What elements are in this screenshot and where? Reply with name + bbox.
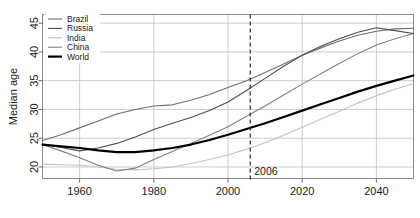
chart-legend: BrazilRussiaIndiaChinaWorld <box>44 12 100 63</box>
y-tick-label-25: 25 <box>29 132 41 144</box>
median-age-line-chart: 202530354045 19601980200020202040 Median… <box>0 0 420 218</box>
vline-2006-label: 2006 <box>254 165 278 177</box>
y-tick-label-20: 20 <box>29 161 41 173</box>
x-tick-label-2000: 2000 <box>216 185 240 197</box>
x-axis-tickmarks <box>80 179 377 183</box>
y-axis-tick-labels: 202530354045 <box>29 17 41 173</box>
x-tick-label-1980: 1980 <box>142 185 166 197</box>
y-tick-label-40: 40 <box>29 46 41 58</box>
x-tick-label-2020: 2020 <box>290 185 314 197</box>
vertical-gridlines <box>80 15 377 179</box>
annotation-2006-group: 2006 <box>250 15 278 180</box>
y-axis-title: Median age <box>7 68 19 126</box>
chart-canvas: 202530354045 19601980200020202040 Median… <box>0 0 420 218</box>
x-axis-tick-labels: 19601980200020202040 <box>67 185 388 197</box>
y-tick-label-45: 45 <box>29 17 41 29</box>
legend-label-world: World <box>67 52 89 62</box>
y-tick-label-35: 35 <box>29 75 41 87</box>
x-tick-label-2040: 2040 <box>364 185 388 197</box>
x-tick-label-1960: 1960 <box>67 185 91 197</box>
y-tick-label-30: 30 <box>29 103 41 115</box>
